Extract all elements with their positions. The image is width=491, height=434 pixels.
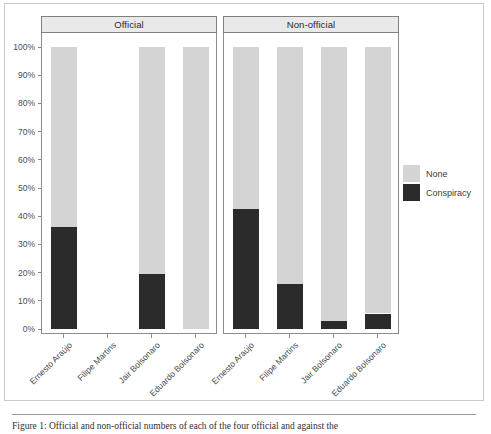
y-axis-tick-label: 70% bbox=[18, 127, 38, 137]
y-axis-tick-label: 20% bbox=[18, 268, 38, 278]
legend-item-none: None bbox=[403, 164, 483, 183]
figure-caption: Figure 1: Official and non-official numb… bbox=[12, 421, 482, 431]
x-axis-tick-mark bbox=[245, 334, 246, 338]
bar-stack bbox=[233, 47, 259, 329]
x-axis-tick-label: Ernesto Araújo bbox=[28, 340, 75, 387]
bar-segment-none bbox=[233, 47, 259, 209]
x-axis-nonofficial: Ernesto AraújoFilipe MartinsJair Bolsona… bbox=[223, 334, 399, 339]
x-axis-tick-label: Jair Bolsonaro bbox=[117, 340, 162, 385]
bar-segment-conspiracy bbox=[233, 209, 259, 329]
bars-layer-nonofficial bbox=[224, 47, 398, 329]
bar-segment-none bbox=[365, 47, 391, 313]
x-axis-tick-mark bbox=[377, 334, 378, 338]
bar-stack bbox=[365, 47, 391, 329]
x-axis-tick-label: Filipe Martins bbox=[257, 340, 300, 383]
y-axis: 0%10%20%30%40%50%60%70%80%90%100% bbox=[5, 33, 41, 334]
bar-stack bbox=[321, 47, 347, 329]
bar-segment-none bbox=[321, 47, 347, 321]
caption-rule bbox=[12, 414, 476, 415]
legend: None Conspiracy bbox=[403, 164, 483, 202]
x-axis-tick-mark bbox=[151, 334, 152, 338]
bar-segment-conspiracy bbox=[277, 284, 303, 329]
y-axis-tick-label: 0% bbox=[23, 324, 38, 334]
x-axis-tick-mark bbox=[107, 334, 108, 338]
x-axis-tick-label: Jair Bolsonaro bbox=[299, 340, 344, 385]
bar-segment-conspiracy bbox=[321, 321, 347, 329]
y-axis-tick-label: 100% bbox=[13, 42, 38, 52]
plot-area: 0%10%20%30%40%50%60%70%80%90%100% Offici… bbox=[5, 4, 483, 400]
y-axis-tick-label: 80% bbox=[18, 98, 38, 108]
facet-strip-label: Non-official bbox=[287, 19, 336, 30]
bar-segment-none bbox=[183, 47, 209, 329]
y-axis-tick-label: 30% bbox=[18, 239, 38, 249]
y-axis-tick-label: 60% bbox=[18, 155, 38, 165]
bars-layer-official bbox=[42, 47, 216, 329]
bar-stack bbox=[139, 47, 165, 329]
bar-segment-conspiracy bbox=[51, 227, 77, 329]
x-axis-tick-mark bbox=[63, 334, 64, 338]
facet-panel-nonofficial: Non-official bbox=[223, 16, 399, 334]
bar-segment-none bbox=[51, 47, 77, 227]
legend-swatch-conspiracy bbox=[403, 184, 420, 201]
facet-strip-nonofficial: Non-official bbox=[223, 16, 399, 33]
bar-stack bbox=[51, 47, 77, 329]
facet-strip-official: Official bbox=[41, 16, 217, 33]
bar-segment-conspiracy bbox=[139, 274, 165, 329]
x-axis-official: Ernesto AraújoFilipe MartinsJair Bolsona… bbox=[41, 334, 217, 339]
x-axis-tick-mark bbox=[289, 334, 290, 338]
bar-segment-conspiracy bbox=[365, 314, 391, 330]
y-axis-tick-label: 40% bbox=[18, 211, 38, 221]
x-axis-tick-mark bbox=[195, 334, 196, 338]
legend-label-none: None bbox=[426, 169, 448, 179]
legend-item-conspiracy: Conspiracy bbox=[403, 183, 483, 202]
x-axis-tick-mark bbox=[333, 334, 334, 338]
bar-stack bbox=[277, 47, 303, 329]
y-axis-tick-label: 90% bbox=[18, 70, 38, 80]
figure-frame: 0%10%20%30%40%50%60%70%80%90%100% Offici… bbox=[4, 3, 484, 401]
x-axis-tick-label: Filipe Martins bbox=[75, 340, 118, 383]
y-axis-tick-label: 10% bbox=[18, 296, 38, 306]
bar-segment-none bbox=[139, 47, 165, 274]
facet-strip-label: Official bbox=[114, 19, 144, 30]
legend-swatch-none bbox=[403, 165, 420, 182]
bar-stack bbox=[183, 47, 209, 329]
panel-body-nonofficial bbox=[223, 33, 399, 334]
bar-segment-none bbox=[277, 47, 303, 284]
facet-panel-official: Official bbox=[41, 16, 217, 334]
legend-label-conspiracy: Conspiracy bbox=[426, 188, 471, 198]
y-axis-tick-label: 50% bbox=[18, 183, 38, 193]
panel-body-official bbox=[41, 33, 217, 334]
x-axis-tick-label: Ernesto Araújo bbox=[210, 340, 257, 387]
